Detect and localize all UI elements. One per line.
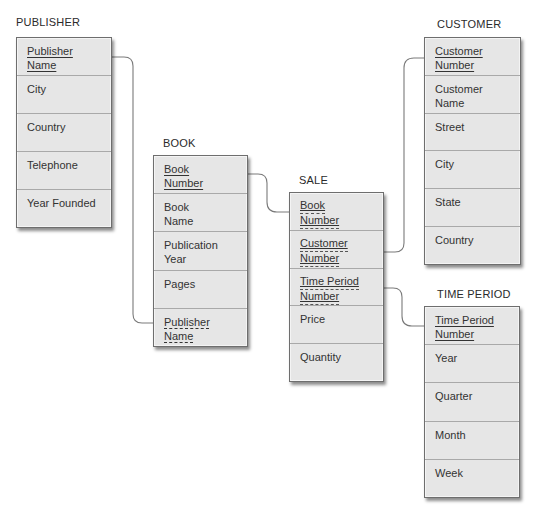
entity-title-time-period: TIME PERIOD xyxy=(437,288,511,300)
attribute-customer-number-pkfk: Customer Number xyxy=(290,230,383,268)
attribute-label: Publisher xyxy=(164,315,210,329)
attribute-label: Pages xyxy=(164,277,195,291)
attribute-city: City xyxy=(425,150,520,188)
attribute-label: Book xyxy=(164,200,189,214)
attribute-label: Year xyxy=(164,252,186,266)
connector-sale-customer xyxy=(384,58,424,252)
attribute-label: Name xyxy=(164,214,193,228)
attribute-state: State xyxy=(425,188,520,226)
attribute-quantity: Quantity xyxy=(290,343,383,381)
attribute-label: Book xyxy=(300,199,325,214)
attribute-publisher-name-fk: Publisher Name xyxy=(154,308,247,346)
attribute-label: State xyxy=(435,195,461,209)
attribute-telephone: Telephone xyxy=(17,151,111,189)
attribute-year-founded: Year Founded xyxy=(17,189,111,227)
attribute-label: Name xyxy=(27,58,56,72)
attribute-label: Number xyxy=(300,214,339,229)
attribute-label: Telephone xyxy=(27,158,78,172)
connector-publisher-book xyxy=(112,57,153,323)
attribute-week: Week xyxy=(425,459,519,497)
attribute-label: Publication xyxy=(164,238,218,252)
attribute-customer-name: Customer Name xyxy=(425,75,520,113)
attribute-label: Quantity xyxy=(300,350,341,364)
attribute-book-number: Book Number xyxy=(154,156,247,193)
attribute-quarter: Quarter xyxy=(425,382,519,420)
attribute-time-period-number: Time Period Number xyxy=(425,307,519,344)
entity-publisher: Publisher Name City Country Telephone Ye… xyxy=(16,37,112,228)
entity-sale: Book Number Customer Number Time Period … xyxy=(289,192,384,382)
attribute-label: Country xyxy=(27,120,66,134)
attribute-label: Customer xyxy=(435,44,483,58)
attribute-country: Country xyxy=(425,226,520,264)
attribute-label: Month xyxy=(435,428,466,442)
entity-title-sale: SALE xyxy=(299,174,328,186)
attribute-label: Country xyxy=(435,233,474,247)
attribute-label: Customer xyxy=(300,237,348,252)
attribute-publisher-name: Publisher Name xyxy=(17,38,111,75)
attribute-label: Time Period xyxy=(300,275,359,290)
attribute-label: Number xyxy=(164,176,203,190)
attribute-country: Country xyxy=(17,113,111,151)
attribute-year: Year xyxy=(425,344,519,382)
attribute-time-period-number-pkfk: Time Period Number xyxy=(290,268,383,306)
attribute-label: Book xyxy=(164,162,189,176)
connector-sale-timeperiod xyxy=(384,288,424,326)
attribute-label: Customer xyxy=(435,82,483,96)
connector-book-sale xyxy=(248,174,289,212)
entity-book: Book Number Book Name Publication Year P… xyxy=(153,155,248,347)
attribute-label: Street xyxy=(435,120,464,134)
attribute-price: Price xyxy=(290,305,383,343)
attribute-label: Publisher xyxy=(27,44,73,58)
entity-title-publisher: PUBLISHER xyxy=(16,16,80,28)
attribute-label: Week xyxy=(435,466,463,480)
attribute-label: Number xyxy=(435,327,474,341)
attribute-label: Name xyxy=(164,329,193,343)
attribute-label: Number xyxy=(300,252,339,267)
attribute-label: Number xyxy=(300,290,339,305)
attribute-label: Price xyxy=(300,312,325,326)
attribute-label: Quarter xyxy=(435,389,472,403)
attribute-label: City xyxy=(435,157,454,171)
attribute-month: Month xyxy=(425,421,519,459)
attribute-label: Name xyxy=(435,96,464,110)
attribute-pages: Pages xyxy=(154,270,247,308)
attribute-customer-number: Customer Number xyxy=(425,38,520,75)
attribute-city: City xyxy=(17,75,111,113)
attribute-book-number-pkfk: Book Number xyxy=(290,193,383,230)
attribute-label: Year Founded xyxy=(27,196,96,210)
entity-customer: Customer Number Customer Name Street Cit… xyxy=(424,37,521,265)
attribute-book-name: Book Name xyxy=(154,193,247,231)
attribute-publication-year: Publication Year xyxy=(154,231,247,269)
attribute-label: Year xyxy=(435,351,457,365)
attribute-label: Time Period xyxy=(435,313,494,327)
attribute-label: City xyxy=(27,82,46,96)
attribute-label: Number xyxy=(435,58,474,72)
entity-title-book: BOOK xyxy=(163,137,196,149)
entity-time-period: Time Period Number Year Quarter Month We… xyxy=(424,306,520,498)
attribute-street: Street xyxy=(425,113,520,151)
entity-title-customer: CUSTOMER xyxy=(437,18,501,30)
